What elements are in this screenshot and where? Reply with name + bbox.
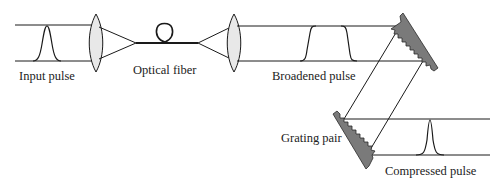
broadened-pulse-label: Broadened pulse bbox=[272, 69, 356, 84]
optical-fiber-label: Optical fiber bbox=[133, 63, 197, 78]
optical-fiber bbox=[136, 24, 198, 44]
lens-2 bbox=[227, 14, 241, 72]
compressed-pulse-shape bbox=[416, 120, 444, 155]
collimate-cone-2 bbox=[198, 27, 231, 59]
compressed-pulse-label: Compressed pulse bbox=[385, 164, 476, 179]
lens-1 bbox=[89, 14, 103, 72]
diagram-canvas bbox=[0, 0, 503, 186]
input-pulse-shape bbox=[33, 26, 61, 61]
grating-1 bbox=[391, 13, 438, 71]
grating-pair-label: Grating pair bbox=[281, 131, 342, 146]
input-beam bbox=[15, 25, 93, 61]
broadened-pulse-shape bbox=[300, 26, 357, 61]
pulse-compression-diagram: Input pulse Optical fiber Broadened puls… bbox=[0, 0, 503, 186]
input-pulse-label: Input pulse bbox=[19, 69, 75, 84]
focus-cone-1 bbox=[99, 27, 136, 59]
